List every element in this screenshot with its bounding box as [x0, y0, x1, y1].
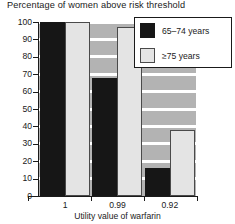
- legend-item: 65–74 years: [135, 18, 231, 43]
- y-tick-label: 10: [4, 174, 32, 183]
- x-tick: [197, 196, 198, 201]
- y-tick-label: 70: [4, 70, 32, 79]
- y-tick: [33, 57, 38, 58]
- chart-title: Percentage of women above risk threshold: [7, 0, 185, 10]
- legend-item-label: ≥75 years: [162, 51, 200, 61]
- x-tick-label: 0.99: [98, 201, 138, 210]
- legend-item-label: 65–74 years: [162, 26, 209, 36]
- bar[interactable]: [145, 168, 170, 196]
- bar[interactable]: [40, 22, 65, 196]
- y-tick: [33, 74, 38, 75]
- y-tick: [33, 39, 38, 40]
- y-tick-label: 40: [4, 122, 32, 131]
- y-tick: [33, 126, 38, 127]
- x-tick: [144, 196, 145, 201]
- y-tick: [33, 161, 38, 162]
- x-tick: [91, 196, 92, 201]
- y-tick: [33, 144, 38, 145]
- y-tick-label: 80: [4, 52, 32, 61]
- x-axis-line: [28, 196, 197, 197]
- bar-chart: Percentage of women above risk threshold…: [0, 0, 235, 224]
- x-tick-label: 1: [45, 201, 85, 210]
- y-tick-label: 50: [4, 105, 32, 114]
- y-tick-label: 90: [4, 35, 32, 44]
- y-axis-line: [38, 22, 39, 197]
- legend-swatch-icon: [140, 48, 155, 63]
- bar[interactable]: [170, 130, 195, 196]
- y-tick-label: 30: [4, 139, 32, 148]
- y-tick: [33, 109, 38, 110]
- y-tick: [33, 196, 38, 197]
- bar[interactable]: [65, 22, 90, 196]
- bar-group: [39, 22, 91, 196]
- y-tick-label: 60: [4, 87, 32, 96]
- y-tick-label: 100: [4, 18, 32, 27]
- legend: 65–74 years ≥75 years: [134, 17, 232, 68]
- y-tick: [33, 179, 38, 180]
- legend-item: ≥75 years: [135, 43, 231, 68]
- x-tick-label: 0.92: [150, 201, 190, 210]
- bar[interactable]: [92, 78, 117, 196]
- y-tick: [33, 92, 38, 93]
- x-axis-title: Utility value of warfarin: [39, 211, 196, 221]
- x-tick: [28, 196, 29, 201]
- y-tick: [33, 22, 38, 23]
- y-tick-label: 20: [4, 157, 32, 166]
- legend-swatch-icon: [140, 23, 155, 38]
